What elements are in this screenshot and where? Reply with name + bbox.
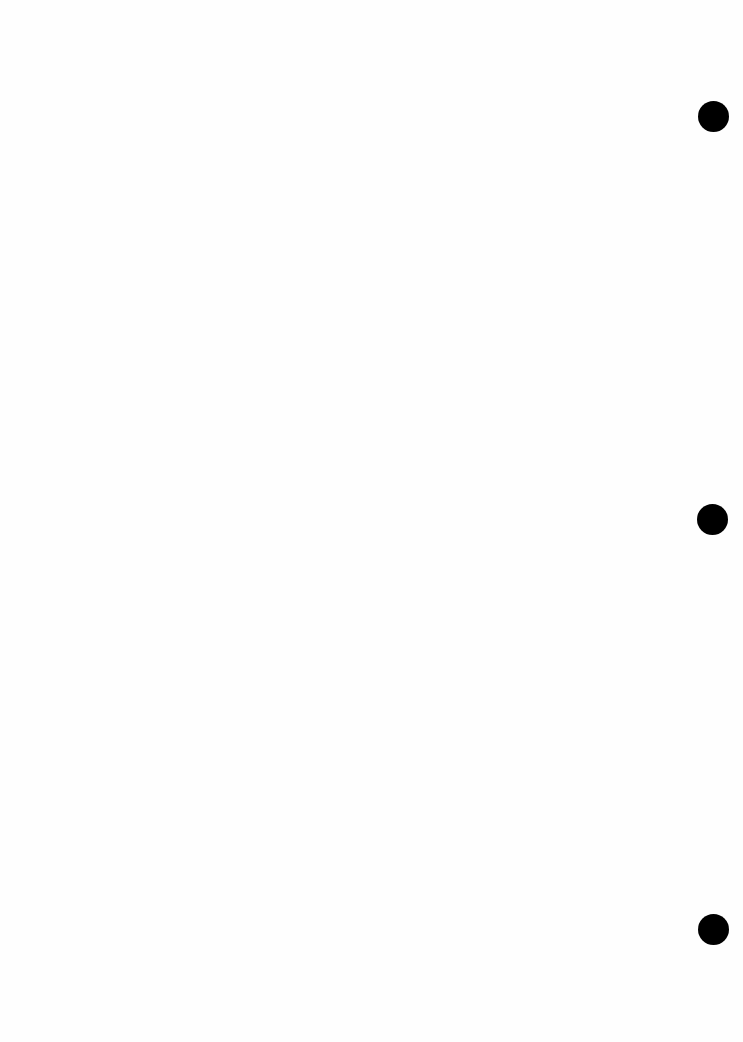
punch-hole-top [698, 101, 729, 132]
punch-hole-bottom [698, 914, 729, 945]
punch-hole-middle [697, 504, 728, 535]
blank-document-page [0, 0, 743, 1042]
